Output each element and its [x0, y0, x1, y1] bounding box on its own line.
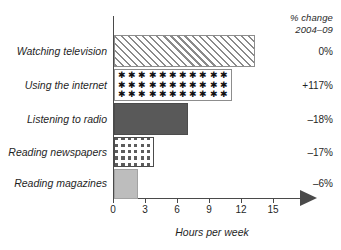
category-label-listening-to-radio: Listening to radio	[0, 113, 107, 125]
bar-using-the-internet: ✱✱✱✱✱✱✱✱✱✱✱ ✱✱✱✱✱✱✱✱✱✱✱ ✱✱✱✱✱✱✱✱✱✱✱	[114, 69, 232, 101]
x-tick-mark-0	[113, 199, 114, 203]
bar-chart: % change 2004–09 0 3 6 9 12 15 ✱✱✱✱✱✱✱✱✱…	[0, 0, 341, 250]
pct-change-header-line2: 2004–09	[243, 24, 333, 36]
bar-reading-newspapers	[114, 137, 154, 167]
x-axis-arrow-icon	[300, 190, 317, 206]
x-tick-mark-3	[145, 199, 146, 203]
pct-value-watching-television: 0%	[243, 46, 333, 57]
x-tick-label-6: 6	[165, 204, 189, 215]
pct-change-header-line1: % change	[243, 12, 333, 24]
x-tick-label-12: 12	[229, 204, 253, 215]
category-label-reading-newspapers: Reading newspapers	[0, 146, 107, 158]
pct-value-reading-magazines: –6%	[243, 178, 333, 189]
category-label-reading-magazines: Reading magazines	[0, 177, 107, 189]
star-pattern-fill: ✱✱✱✱✱✱✱✱✱✱✱ ✱✱✱✱✱✱✱✱✱✱✱ ✱✱✱✱✱✱✱✱✱✱✱	[115, 70, 231, 100]
pct-value-reading-newspapers: –17%	[243, 147, 333, 158]
star-row: ✱✱✱✱✱✱✱✱✱✱✱	[116, 71, 230, 80]
x-tick-label-9: 9	[197, 204, 221, 215]
category-label-watching-television: Watching television	[0, 45, 107, 57]
pct-change-header: % change 2004–09	[243, 12, 333, 36]
x-axis-line	[113, 198, 311, 199]
star-row: ✱✱✱✱✱✱✱✱✱✱✱	[116, 90, 230, 99]
bar-listening-to-radio	[114, 103, 188, 135]
x-axis-title: Hours per week	[113, 226, 311, 238]
category-label-using-the-internet: Using the internet	[0, 79, 107, 91]
pct-value-listening-to-radio: –18%	[243, 114, 333, 125]
star-row: ✱✱✱✱✱✱✱✱✱✱✱	[116, 81, 230, 90]
bar-reading-magazines	[114, 169, 138, 199]
x-tick-mark-9	[209, 199, 210, 203]
x-tick-label-0: 0	[101, 204, 125, 215]
bar-watching-television	[114, 35, 255, 67]
x-tick-mark-6	[177, 199, 178, 203]
pct-value-using-the-internet: +117%	[243, 80, 333, 91]
x-tick-mark-12	[241, 199, 242, 203]
x-tick-mark-15	[273, 199, 274, 203]
x-tick-label-3: 3	[133, 204, 157, 215]
x-tick-label-15: 15	[261, 204, 285, 215]
